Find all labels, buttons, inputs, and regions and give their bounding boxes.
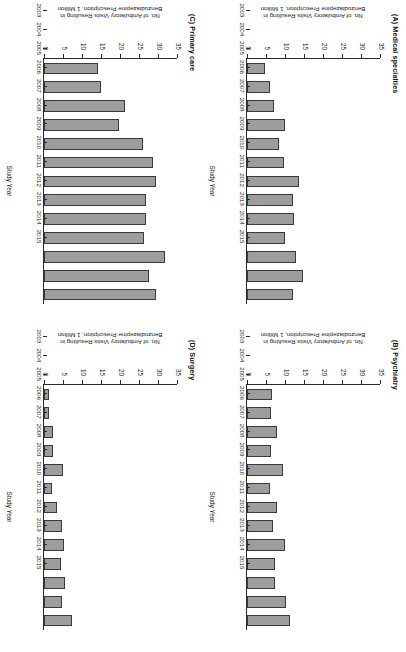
bar[interactable] bbox=[44, 596, 62, 608]
bar[interactable] bbox=[247, 176, 299, 188]
bar[interactable] bbox=[247, 539, 285, 551]
bar-item[interactable] bbox=[44, 442, 177, 461]
bar[interactable] bbox=[44, 483, 52, 495]
bar-item[interactable] bbox=[44, 153, 177, 172]
bar[interactable] bbox=[247, 464, 283, 476]
bar[interactable] bbox=[44, 615, 72, 627]
bar[interactable] bbox=[44, 289, 156, 301]
bar[interactable] bbox=[247, 270, 303, 282]
bar-item[interactable] bbox=[247, 611, 380, 630]
bar-item[interactable] bbox=[247, 247, 380, 266]
bar-item[interactable] bbox=[247, 404, 380, 423]
bar-item[interactable] bbox=[44, 536, 177, 555]
bar[interactable] bbox=[247, 63, 265, 75]
bar[interactable] bbox=[247, 289, 293, 301]
bar[interactable] bbox=[44, 176, 156, 188]
bar[interactable] bbox=[44, 138, 143, 150]
bar-item[interactable] bbox=[44, 116, 177, 135]
bar-item[interactable] bbox=[247, 592, 380, 611]
bar[interactable] bbox=[44, 389, 49, 401]
bar[interactable] bbox=[247, 251, 296, 263]
bar[interactable] bbox=[247, 100, 274, 112]
bar[interactable] bbox=[44, 407, 49, 419]
bar-item[interactable] bbox=[247, 517, 380, 536]
bar-item[interactable] bbox=[247, 385, 380, 404]
bar[interactable] bbox=[247, 389, 272, 401]
bar[interactable] bbox=[247, 194, 293, 206]
bar[interactable] bbox=[44, 558, 61, 570]
bar-item[interactable] bbox=[44, 555, 177, 574]
bar-item[interactable] bbox=[44, 460, 177, 479]
bar-item[interactable] bbox=[247, 191, 380, 210]
bar-item[interactable] bbox=[247, 423, 380, 442]
bar[interactable] bbox=[247, 407, 271, 419]
bar-item[interactable] bbox=[247, 210, 380, 229]
bar[interactable] bbox=[44, 157, 153, 169]
bar[interactable] bbox=[44, 213, 146, 225]
bar-item[interactable] bbox=[44, 134, 177, 153]
bar-item[interactable] bbox=[247, 172, 380, 191]
bar-item[interactable] bbox=[44, 97, 177, 116]
bar-item[interactable] bbox=[247, 153, 380, 172]
bar-item[interactable] bbox=[44, 172, 177, 191]
bar[interactable] bbox=[44, 426, 54, 438]
bar-item[interactable] bbox=[44, 517, 177, 536]
bar[interactable] bbox=[247, 577, 276, 589]
bar[interactable] bbox=[44, 119, 119, 131]
bar-item[interactable] bbox=[247, 59, 380, 78]
bar-item[interactable] bbox=[44, 59, 177, 78]
bar[interactable] bbox=[247, 81, 270, 93]
bar-item[interactable] bbox=[247, 229, 380, 248]
bar-item[interactable] bbox=[44, 229, 177, 248]
bar-item[interactable] bbox=[247, 442, 380, 461]
bar[interactable] bbox=[247, 596, 286, 608]
bar[interactable] bbox=[247, 445, 271, 457]
bar[interactable] bbox=[247, 157, 284, 169]
bar[interactable] bbox=[247, 426, 277, 438]
bar[interactable] bbox=[247, 138, 279, 150]
bar-item[interactable] bbox=[247, 116, 380, 135]
bar[interactable] bbox=[247, 232, 285, 244]
bar[interactable] bbox=[44, 464, 63, 476]
bar[interactable] bbox=[44, 270, 149, 282]
bar-item[interactable] bbox=[44, 266, 177, 285]
bar-item[interactable] bbox=[44, 247, 177, 266]
bar-item[interactable] bbox=[44, 592, 177, 611]
bar-item[interactable] bbox=[44, 611, 177, 630]
bar-item[interactable] bbox=[44, 78, 177, 97]
bar[interactable] bbox=[247, 213, 294, 225]
bar[interactable] bbox=[247, 520, 273, 532]
bar-item[interactable] bbox=[44, 404, 177, 423]
bar-item[interactable] bbox=[247, 536, 380, 555]
bar-item[interactable] bbox=[44, 285, 177, 304]
bar-item[interactable] bbox=[247, 97, 380, 116]
bar[interactable] bbox=[44, 194, 146, 206]
bar[interactable] bbox=[247, 615, 290, 627]
bar-item[interactable] bbox=[247, 285, 380, 304]
bar-item[interactable] bbox=[247, 555, 380, 574]
bar-item[interactable] bbox=[247, 134, 380, 153]
bar[interactable] bbox=[44, 520, 62, 532]
bar[interactable] bbox=[247, 119, 285, 131]
bar[interactable] bbox=[44, 539, 64, 551]
bar-item[interactable] bbox=[247, 573, 380, 592]
bar[interactable] bbox=[44, 100, 125, 112]
bar-item[interactable] bbox=[44, 479, 177, 498]
bar[interactable] bbox=[247, 558, 275, 570]
bar-item[interactable] bbox=[44, 385, 177, 404]
bar-item[interactable] bbox=[44, 191, 177, 210]
bar-item[interactable] bbox=[247, 78, 380, 97]
bar[interactable] bbox=[44, 251, 165, 263]
bar-item[interactable] bbox=[44, 210, 177, 229]
bar[interactable] bbox=[44, 63, 98, 75]
bar[interactable] bbox=[44, 502, 57, 514]
bar[interactable] bbox=[44, 445, 53, 457]
bar[interactable] bbox=[44, 81, 101, 93]
bar[interactable] bbox=[247, 483, 270, 495]
bar[interactable] bbox=[44, 232, 144, 244]
bar[interactable] bbox=[247, 502, 277, 514]
bar-item[interactable] bbox=[44, 423, 177, 442]
bar[interactable] bbox=[44, 577, 65, 589]
bar-item[interactable] bbox=[44, 573, 177, 592]
bar-item[interactable] bbox=[247, 479, 380, 498]
